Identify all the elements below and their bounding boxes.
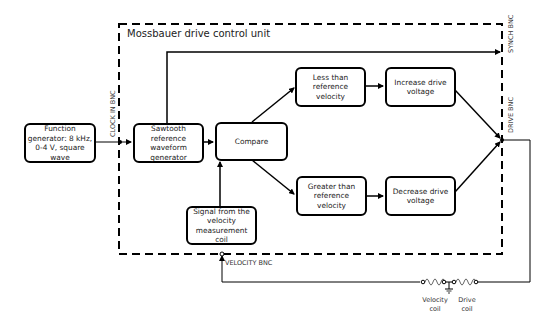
velocity-coil-label-line2: coil <box>418 305 452 314</box>
ground-icon <box>445 282 453 293</box>
drive-coil-label-line2: coil <box>453 305 481 314</box>
sawtooth-generator-box: Sawtooth reference waveform generator <box>133 123 204 163</box>
velocity-coil-icon <box>421 279 446 285</box>
compare-box: Compare <box>215 122 288 161</box>
velocity-coil-label-line1: Velocity <box>418 296 452 305</box>
drive-coil-label: Drive coil <box>453 296 481 314</box>
drive-bnc-label: DRIVE BNC <box>507 97 515 133</box>
diagram-title: Mossbauer drive control unit <box>127 28 270 39</box>
increase-voltage-box: Increase drive voltage <box>385 67 456 107</box>
drive-coil-label-line1: Drive <box>453 296 481 305</box>
function-generator-box: Function generator: 8 kHz, 0-4 V, square… <box>24 123 96 163</box>
connections-layer <box>0 0 552 326</box>
velocity-coil-label: Velocity coil <box>418 296 452 314</box>
greater-than-box: Greater than reference velocity <box>296 176 367 216</box>
drive-coil-icon <box>452 279 478 285</box>
velocity-bnc-label: VELOCITY BNC <box>225 259 272 267</box>
less-than-box: Less than reference velocity <box>295 67 366 107</box>
signal-coil-box: Signal from the velocity measurement coi… <box>186 206 257 245</box>
decrease-voltage-box: Decrease drive voltage <box>385 176 456 216</box>
synch-bnc-label: SYNCH BNC <box>507 15 515 53</box>
clock-in-bnc-label: CLOCK IN BNC <box>109 90 117 137</box>
